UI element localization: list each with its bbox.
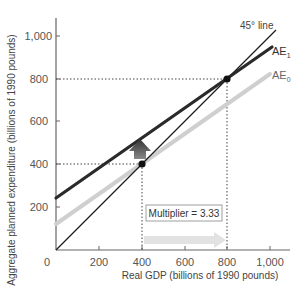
y-axis-title: Aggregate planned expenditure (billions … (6, 34, 17, 285)
initial-equilibrium-point (138, 160, 145, 167)
y-tick-400: 400 (30, 158, 48, 170)
x-tick-600: 600 (176, 256, 194, 268)
x-tick-200: 200 (90, 256, 108, 268)
line-45-label: 45° line (240, 20, 274, 31)
x-tick-800: 800 (218, 256, 236, 268)
origin-label: 0 (44, 256, 50, 268)
x-tick-400: 400 (133, 256, 151, 268)
ae1-label: AE1 (272, 45, 291, 59)
x-axis-title: Real GDP (billions of 1990 pounds) (122, 270, 279, 281)
ae0-label: AE0 (272, 69, 291, 83)
gdp-increase-arrow (144, 232, 226, 248)
y-tick-200: 200 (30, 201, 48, 213)
x-tick-1000: 1,000 (256, 256, 284, 268)
y-tick-1000: 1,000 (24, 30, 52, 42)
y-tick-600: 600 (30, 115, 48, 127)
multiplier-label: Multiplier = 3.33 (149, 208, 220, 219)
ae-shift-arrow (129, 139, 151, 159)
y-tick-800: 800 (30, 73, 48, 85)
ae-multiplier-chart: 200 400 600 800 1,000 0 200 400 600 800 … (0, 0, 306, 290)
ae0-line (56, 74, 270, 224)
ae1-line (56, 47, 272, 198)
new-equilibrium-point (223, 75, 230, 82)
